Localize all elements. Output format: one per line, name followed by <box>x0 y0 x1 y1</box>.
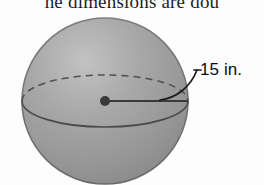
sphere-drawing <box>0 0 264 185</box>
dimension-label-15-in: 15 in. <box>200 60 242 79</box>
sphere-figure: he dimensions are dou <box>0 0 264 185</box>
center-point <box>100 96 110 106</box>
